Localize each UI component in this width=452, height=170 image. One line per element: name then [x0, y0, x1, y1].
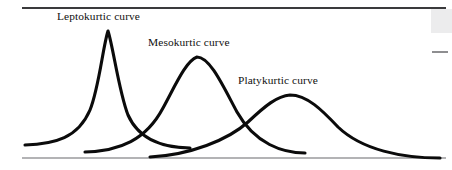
leptokurtic-curve — [25, 31, 190, 148]
curves-plot — [0, 0, 452, 170]
kurtosis-figure: Leptokurtic curve Mesokurtic curve Platy… — [0, 0, 452, 170]
leptokurtic-curve-label: Leptokurtic curve — [57, 10, 140, 22]
platykurtic-curve — [150, 95, 440, 158]
platykurtic-curve-label: Platykurtic curve — [238, 74, 318, 86]
mesokurtic-curve-label: Mesokurtic curve — [148, 36, 230, 48]
